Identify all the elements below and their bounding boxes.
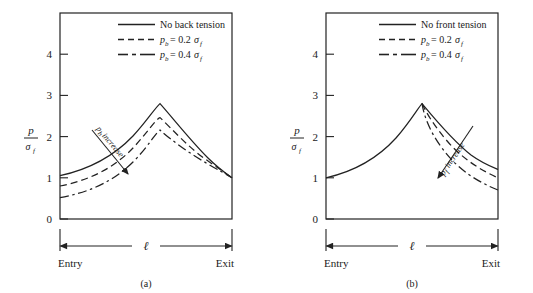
y-tick-label-0: 0: [313, 213, 319, 225]
y-axis-title: p σ f: [290, 124, 304, 155]
y-tick-label-4: 4: [313, 48, 319, 60]
curve-b-solid: [326, 104, 498, 178]
panel-caption: (a): [140, 278, 151, 290]
figure-container: 0 1 2 3 4 p σ f No back tension p b = 0.: [0, 0, 533, 293]
curve-a-dashdot: [60, 130, 232, 198]
y-axis-title-denominator: σ: [26, 141, 32, 152]
plot-frame: [60, 13, 232, 219]
y-axis-title-denominator: σ: [292, 141, 298, 152]
y-axis-title-numerator: p: [293, 124, 300, 136]
legend-1-subscript: b: [426, 40, 430, 48]
entry-label: Entry: [324, 257, 349, 269]
legend-2-equals: = 0.4: [170, 49, 191, 60]
legend-1-equals: = 0.2: [170, 34, 191, 45]
legend-2-equals: = 0.4: [431, 49, 452, 60]
panel-b: 0 1 2 3 4 p σ f No front tension p b = 0…: [266, 0, 532, 293]
exit-label: Exit: [482, 257, 500, 269]
y-axis-title-denominator-subscript: f: [299, 147, 302, 155]
entry-label: Entry: [58, 257, 83, 269]
y-axis-ticks: [60, 54, 68, 219]
y-axis-title-numerator: p: [27, 124, 34, 136]
legend-2-subscript: b: [426, 55, 430, 63]
legend-label-2: p b = 0.4 σ f: [159, 49, 203, 63]
curve-a-solid: [60, 104, 232, 178]
y-tick-label-3: 3: [47, 89, 53, 101]
legend-1-sigma-subscript: f: [200, 40, 203, 48]
legend-2-subscript: b: [165, 55, 169, 63]
legend-1-sigma-subscript: f: [461, 40, 464, 48]
annotation-label: p b increase: [92, 123, 126, 160]
y-axis-ticks: [326, 54, 334, 219]
legend: No back tension p b = 0.2 σ f p b: [118, 19, 225, 63]
legend-1-equals: = 0.2: [431, 34, 452, 45]
annotation-text: increase: [442, 140, 466, 169]
curve-a-dashed: [60, 118, 232, 186]
exit-label: Exit: [216, 257, 234, 269]
legend-label-1: p b = 0.2 σ f: [420, 34, 464, 48]
legend: No front tension p b = 0.2 σ f p b: [379, 19, 487, 63]
y-tick-label-3: 3: [313, 89, 319, 101]
legend-label-0: No back tension: [160, 19, 225, 30]
legend-1-subscript: b: [165, 40, 169, 48]
panel-caption: (b): [406, 278, 418, 290]
panel-b-plot: 0 1 2 3 4 p σ f No front tension p b = 0…: [266, 0, 533, 293]
y-axis-title: p σ f: [24, 124, 38, 155]
y-tick-label-1: 1: [47, 172, 53, 184]
annotation-label: p f increase: [437, 140, 469, 179]
legend-2-sigma-subscript: f: [200, 55, 203, 63]
curve-b-dashed: [422, 104, 498, 178]
legend-label-1: p b = 0.2 σ f: [159, 34, 203, 48]
y-tick-label-1: 1: [313, 172, 319, 184]
plot-frame: [326, 13, 498, 219]
y-tick-label-4: 4: [47, 48, 53, 60]
y-tick-label-2: 2: [313, 131, 319, 143]
legend-label-2: p b = 0.4 σ f: [420, 49, 464, 63]
y-tick-label-0: 0: [47, 213, 53, 225]
length-label: ℓ: [144, 239, 149, 253]
panel-a-plot: 0 1 2 3 4 p σ f No back tension p b = 0.: [0, 0, 266, 293]
y-axis-title-denominator-subscript: f: [33, 147, 36, 155]
legend-label-0: No front tension: [421, 19, 487, 30]
legend-2-sigma-subscript: f: [461, 55, 464, 63]
y-tick-label-2: 2: [47, 131, 53, 143]
panel-a: 0 1 2 3 4 p σ f No back tension p b = 0.: [0, 0, 266, 293]
length-label: ℓ: [410, 239, 415, 253]
